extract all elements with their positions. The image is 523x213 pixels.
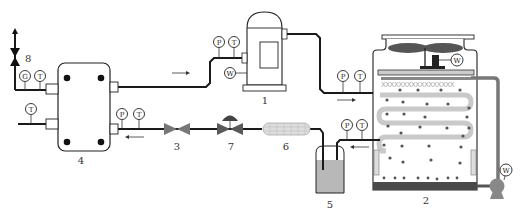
svg-text:T: T [38, 73, 43, 81]
flow-arrow-hx-liquid [125, 135, 144, 139]
refrigeration-schematic: 8 G T T 4 P [0, 0, 523, 213]
plate-heat-exchanger-4: 4 [46, 63, 118, 166]
liquid-receiver-5: 5 [316, 146, 344, 210]
gauge-t-hx-lower: T [26, 104, 37, 125]
label-8: 8 [25, 53, 31, 64]
svg-text:T: T [358, 73, 363, 81]
gauge-w-compressor: W [225, 68, 248, 79]
filter-drier-6: 6 [263, 123, 310, 152]
gauge-p-suction: P [214, 37, 225, 59]
label-5: 5 [327, 199, 333, 210]
label-4: 4 [78, 155, 84, 166]
gauge-t-liquid-out: T [357, 120, 368, 141]
gauge-g-hx-in: G [20, 71, 31, 91]
valve-3: 3 [164, 123, 190, 152]
svg-text:W: W [502, 167, 510, 175]
gauge-w-pump: W [500, 164, 512, 180]
gauge-t-suction: T [229, 37, 240, 59]
gauge-t-hx-in: T [35, 71, 46, 91]
solenoid-valve-7: 7 [217, 116, 243, 153]
water-pump [490, 179, 505, 200]
label-1: 1 [262, 95, 268, 106]
gauge-p-discharge: P [338, 71, 349, 94]
svg-text:W: W [453, 57, 461, 65]
svg-text:XXXXXXXXXXXXXXXXX: XXXXXXXXXXXXXXXXX [381, 81, 455, 89]
flow-arrow-liquid-out [350, 145, 369, 149]
svg-text:T: T [360, 122, 365, 130]
label-6: 6 [283, 141, 289, 152]
svg-text:P: P [341, 73, 346, 81]
svg-text:G: G [22, 73, 28, 81]
gauge-p-liquid-out: P [342, 120, 353, 141]
svg-text:T: T [29, 106, 34, 114]
svg-text:P: P [345, 122, 350, 130]
gauge-t-discharge: T [355, 71, 366, 94]
compressor-1: 1 [242, 12, 287, 106]
label-7: 7 [228, 141, 234, 152]
svg-text:P: P [120, 111, 125, 119]
svg-text:T: T [137, 111, 142, 119]
svg-text:W: W [226, 70, 234, 78]
svg-text:T: T [232, 39, 237, 47]
label-3: 3 [174, 141, 180, 152]
flow-arrow-discharge [337, 98, 356, 102]
gauge-t-hx-liquid: T [134, 109, 145, 130]
svg-text:P: P [217, 39, 222, 47]
flow-arrow-suction [172, 71, 190, 75]
label-2: 2 [423, 195, 429, 206]
